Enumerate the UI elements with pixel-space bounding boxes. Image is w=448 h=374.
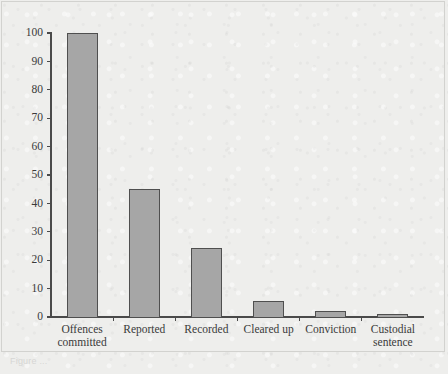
y-tick-label: 0 [37,310,43,322]
x-tick-labels: OffencescommittedReportedRecordedCleared… [58,323,415,348]
bar [254,301,284,317]
y-tick-label: 70 [32,111,44,123]
figure-container: 0102030405060708090100 Offencescommitted… [0,0,448,374]
bar [191,249,221,317]
y-tick-label: 40 [32,197,44,209]
bar [67,33,97,317]
y-axis: 0102030405060708090100 [26,26,51,322]
bars-group [67,33,408,317]
x-tick-label: committed [58,336,107,348]
y-tick-label: 30 [32,225,44,237]
x-tick-label: sentence [373,336,413,348]
x-axis [51,317,424,321]
x-tick-label: Custodial [371,323,415,335]
y-tick-label: 100 [26,26,44,38]
x-tick-label: Reported [123,323,165,336]
x-tick-label: Recorded [184,323,228,335]
y-tick-label: 20 [32,253,44,265]
bar [316,311,346,317]
y-tick-label: 90 [32,55,44,67]
x-tick-label: Conviction [305,323,356,335]
chart-svg-canvas: 0102030405060708090100 Offencescommitted… [0,0,448,374]
figure-caption: Figure ... [10,356,48,366]
bar [378,314,408,317]
y-tick-label: 10 [32,282,44,294]
bar [129,189,159,317]
bar-chart: 0102030405060708090100 Offencescommitted… [0,0,448,374]
y-tick-label: 60 [32,140,44,152]
y-tick-label: 80 [32,83,44,95]
x-tick-label: Cleared up [244,323,294,336]
y-tick-label: 50 [32,168,44,180]
x-tick-label: Offences [61,323,103,335]
caption-strip: Figure ... [0,354,448,374]
